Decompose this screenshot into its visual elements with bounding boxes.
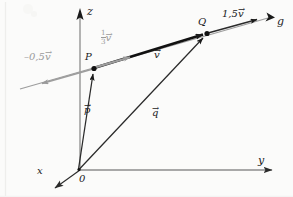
axis-label-z: z	[87, 6, 93, 17]
point-label-P: P	[85, 52, 92, 62]
vector-accent-v: →	[154, 46, 160, 55]
vector-p-arrow	[79, 74, 94, 169]
scalar-label-one-point-five-v: 1,5 → v	[222, 9, 244, 19]
vector-diagram-canvas	[0, 0, 293, 197]
vector-label-q: → q	[152, 108, 158, 118]
origin-dot	[77, 168, 80, 171]
scalar-negative-half-v-arrow	[42, 69, 93, 84]
vector-accent-p: →	[84, 101, 90, 110]
line-label-g: g	[277, 16, 284, 27]
vector-accent-v-third: →	[106, 30, 112, 39]
scalar-coefficient-negative-half: –0,5	[24, 51, 45, 62]
axis-label-y: y	[258, 155, 264, 166]
vector-q-arrow	[80, 38, 204, 169]
origin-label: 0	[79, 174, 85, 184]
vector-label-v: → v	[154, 50, 160, 60]
scalar-coefficient-one-point-five: 1,5	[222, 8, 238, 19]
vector-accent-v-neghalf: →	[45, 48, 51, 57]
axis-x	[55, 170, 80, 188]
scalar-label-one-third-v: 1 3 → v	[101, 29, 111, 45]
scalar-label-negative-half-v: –0,5 → v	[24, 52, 51, 62]
scalar-one-third-v-arrow	[95, 57, 130, 67]
vector-accent-v-onefive: →	[238, 5, 244, 14]
scan-artifacts	[0, 2, 293, 196]
point-label-Q: Q	[198, 17, 206, 27]
point-Q-dot[interactable]	[204, 31, 209, 36]
axis-label-x: x	[37, 166, 43, 176]
vector-accent-q: →	[152, 104, 158, 113]
vector-label-p: → p	[84, 105, 90, 115]
scalar-one-point-five-v-arrow	[208, 20, 257, 34]
point-P-dot[interactable]	[91, 66, 96, 71]
